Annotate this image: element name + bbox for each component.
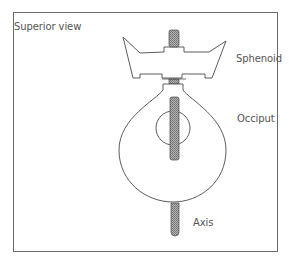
axis-rod [171, 203, 179, 236]
cranial-diagram [0, 0, 290, 259]
upper-rod [169, 30, 179, 47]
middle-rod [170, 97, 179, 160]
sbs-collar [169, 79, 179, 84]
